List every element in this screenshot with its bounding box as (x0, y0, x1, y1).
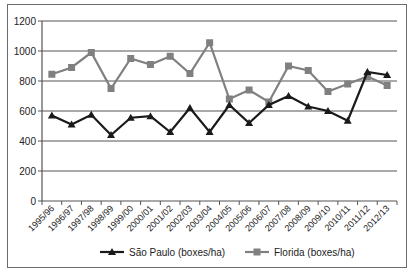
line-chart: 020040060080010001200 1995/961996/971997… (0, 0, 414, 275)
square-marker (88, 49, 95, 56)
y-axis: 020040060080010001200 (14, 16, 42, 207)
gridlines (42, 21, 397, 171)
square-marker (186, 70, 193, 77)
square-marker (167, 53, 174, 60)
x-axis: 1995/961996/971997/981998/991999/002000/… (26, 201, 397, 233)
square-marker (147, 61, 154, 68)
square-marker (285, 63, 292, 70)
legend-label: Florida (boxes/ha) (274, 247, 355, 258)
series-square (48, 39, 390, 105)
triangle-marker (186, 104, 194, 111)
legend: São Paulo (boxes/ha)Florida (boxes/ha) (100, 247, 355, 258)
y-tick-label: 600 (19, 106, 36, 117)
square-marker (48, 71, 55, 78)
square-marker (344, 81, 351, 88)
square-marker (108, 85, 115, 92)
legend-item: Florida (boxes/ha) (245, 247, 355, 258)
square-marker (254, 249, 261, 256)
legend-item: São Paulo (boxes/ha) (100, 247, 225, 258)
y-tick-label: 1200 (14, 16, 37, 27)
square-marker (305, 67, 312, 74)
square-marker (324, 88, 331, 95)
square-marker (206, 39, 213, 46)
square-marker (68, 64, 75, 71)
y-tick-label: 1000 (14, 46, 37, 57)
square-marker (127, 55, 134, 62)
y-tick-label: 400 (19, 136, 36, 147)
series-triangle (48, 68, 391, 138)
triangle-marker (48, 112, 56, 119)
y-tick-label: 0 (30, 196, 36, 207)
triangle-marker (285, 92, 293, 99)
square-marker (384, 82, 391, 89)
y-tick-label: 200 (19, 166, 36, 177)
legend-label: São Paulo (boxes/ha) (129, 247, 225, 258)
square-marker (246, 87, 253, 94)
y-tick-label: 800 (19, 76, 36, 87)
triangle-marker (87, 111, 95, 118)
data-series (48, 39, 391, 138)
